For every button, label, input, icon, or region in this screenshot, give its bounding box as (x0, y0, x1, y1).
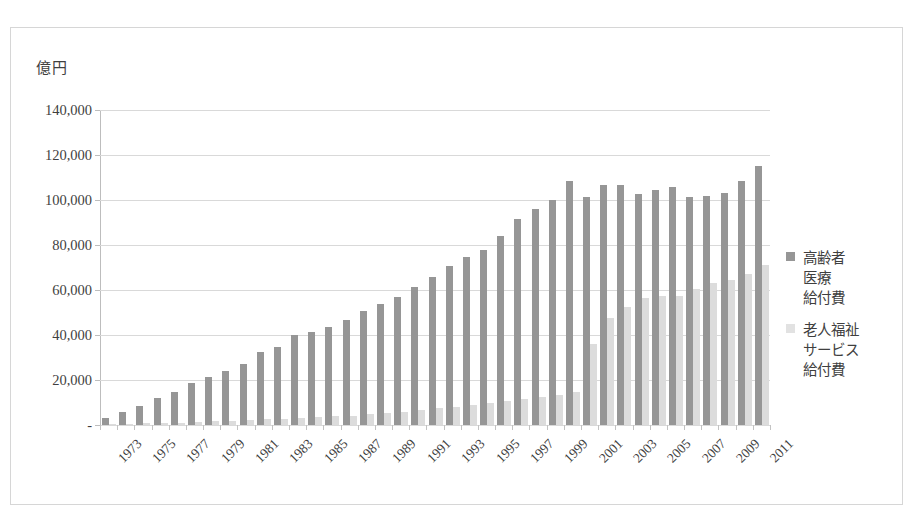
bar-welfare (109, 424, 116, 425)
bar-medical (343, 320, 350, 425)
x-axis-tick-mark (341, 425, 342, 430)
bar-welfare (762, 265, 769, 425)
bar-welfare (264, 419, 271, 425)
bar-medical (738, 181, 745, 425)
bar-welfare (659, 296, 666, 425)
bar-welfare (401, 412, 408, 426)
x-axis-tick-mark (237, 425, 238, 430)
x-axis-tick-mark (581, 425, 582, 430)
bar-medical (669, 187, 676, 426)
bar-welfare (418, 410, 425, 425)
bar-welfare (298, 418, 305, 425)
bar-welfare (504, 401, 511, 425)
x-axis-tick-mark (650, 425, 651, 430)
bar-medical (102, 418, 109, 425)
bar-medical (188, 383, 195, 425)
bar-welfare (624, 307, 631, 425)
bar-welfare (178, 423, 185, 425)
bar-welfare (350, 416, 357, 425)
y-axis-tick-mark (95, 245, 100, 246)
x-axis-tick-mark (444, 425, 445, 430)
bar-medical (755, 166, 762, 425)
legend-item-label: 老人福祉 (803, 320, 896, 340)
bar-medical (566, 181, 573, 425)
bar-medical (291, 335, 298, 425)
bar-medical (308, 332, 315, 425)
x-axis-tick-mark (306, 425, 307, 430)
x-axis-tick-mark (289, 425, 290, 430)
x-axis-tick-mark (529, 425, 530, 430)
y-axis-tick-mark (95, 380, 100, 381)
x-axis-tick-mark (667, 425, 668, 430)
x-axis-tick-mark (255, 425, 256, 430)
legend-item-label: 高齢者 (803, 248, 896, 268)
x-axis-tick-mark (701, 425, 702, 430)
bar-welfare (710, 283, 717, 425)
y-axis-tick-label: 120,000 (45, 147, 92, 164)
y-axis-tick-label: - (87, 417, 92, 434)
x-axis-tick-mark (272, 425, 273, 430)
x-axis-tick-mark (426, 425, 427, 430)
y-axis-tick-mark (95, 290, 100, 291)
bar-welfare (384, 413, 391, 425)
y-axis-tick-mark (95, 110, 100, 111)
bar-welfare (161, 423, 168, 425)
legend-item-label: 給付費 (803, 360, 896, 380)
bar-welfare (367, 414, 374, 425)
bar-medical (119, 412, 126, 426)
bar-welfare (693, 289, 700, 425)
x-axis-tick-mark (547, 425, 548, 430)
bar-welfare (453, 407, 460, 425)
legend-item: 高齢者医療給付費 (786, 248, 896, 308)
bar-medical (171, 392, 178, 425)
bar-medical (240, 364, 247, 425)
x-axis-tick-mark (495, 425, 496, 430)
y-axis-tick-label: 60,000 (52, 282, 92, 299)
bar-medical (257, 352, 264, 425)
y-axis-tick-mark (95, 155, 100, 156)
bar-welfare (332, 416, 339, 425)
bar-welfare (676, 296, 683, 425)
bar-medical (136, 406, 143, 425)
bar-medical (463, 257, 470, 425)
legend-swatch-icon (786, 252, 795, 261)
x-axis-tick-mark (392, 425, 393, 430)
bar-welfare (143, 423, 150, 425)
bar-medical (222, 371, 229, 425)
x-axis-tick-mark (409, 425, 410, 430)
bar-medical (205, 377, 212, 425)
y-axis-tick-mark (95, 335, 100, 336)
legend-item: 老人福祉サービス給付費 (786, 320, 896, 380)
bar-welfare (590, 344, 597, 425)
bar-medical (325, 327, 332, 425)
x-axis-tick-mark (134, 425, 135, 430)
bar-welfare (470, 405, 477, 425)
x-axis-tick-mark (736, 425, 737, 430)
bar-medical (274, 347, 281, 425)
bar-medical (480, 250, 487, 426)
bar-welfare (212, 421, 219, 425)
y-axis-tick-label: 100,000 (45, 192, 92, 209)
x-axis-tick-mark (169, 425, 170, 430)
bar-medical (394, 297, 401, 425)
x-axis-tick-mark (186, 425, 187, 430)
y-axis-tick-label: 80,000 (52, 237, 92, 254)
bar-welfare (745, 274, 752, 425)
bar-medical (377, 304, 384, 426)
x-axis-tick-mark (564, 425, 565, 430)
y-axis-tick-label: 20,000 (52, 372, 92, 389)
y-axis-tick-labels: 140,000120,000100,00080,00060,00040,0002… (0, 0, 92, 528)
bar-medical (600, 185, 607, 425)
bar-welfare (195, 422, 202, 425)
bar-medical (497, 236, 504, 425)
bar-medical (721, 193, 728, 425)
bar-welfare (539, 397, 546, 425)
chart-page: 億円 140,000120,000100,00080,00060,00040,0… (0, 0, 913, 528)
x-axis-tick-mark (633, 425, 634, 430)
x-axis-tick-mark (358, 425, 359, 430)
x-axis-tick-mark (753, 425, 754, 430)
bar-welfare (487, 403, 494, 425)
bar-medical (154, 398, 161, 425)
legend-swatch-icon (786, 324, 795, 333)
x-axis-tick-mark (375, 425, 376, 430)
